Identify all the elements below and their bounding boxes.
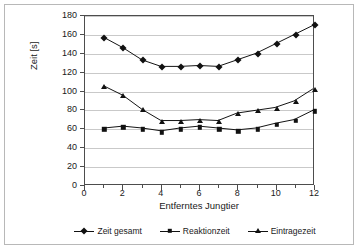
data-point-square: [121, 125, 125, 129]
legend-label: Reaktionzeit: [183, 226, 230, 236]
data-point-square: [102, 127, 106, 131]
data-point-triangle: [140, 107, 146, 112]
plot-area: [84, 15, 314, 185]
data-point-triangle: [197, 118, 203, 123]
data-point-triangle: [255, 108, 261, 113]
data-point-square: [179, 127, 183, 131]
y-tick-label: 120: [33, 67, 77, 76]
y-tick-label: 140: [33, 48, 77, 57]
data-point-square: [140, 127, 144, 131]
legend-item-0[interactable]: Zeit gesamt: [74, 226, 141, 236]
x-tick-mark-minor: [142, 185, 143, 188]
data-point-triangle: [159, 119, 165, 124]
data-point-triangle: [312, 87, 318, 92]
x-tick-mark-minor: [103, 185, 104, 188]
data-point-square: [159, 130, 163, 134]
data-point-square: [294, 119, 298, 123]
x-tick-label: 6: [184, 188, 214, 198]
data-point-triangle: [178, 119, 184, 124]
x-tick-mark-minor: [218, 185, 219, 188]
y-tick-label: 160: [33, 29, 77, 38]
x-tick-label: 2: [107, 188, 137, 198]
series-lines: [85, 16, 313, 184]
series-line-2: [104, 86, 313, 121]
data-point-triangle: [101, 84, 107, 89]
legend-label: Zeit gesamt: [97, 226, 141, 236]
data-point-triangle: [235, 111, 241, 116]
x-tick-mark-minor: [180, 185, 181, 188]
data-point-square: [236, 129, 240, 133]
data-point-square: [313, 109, 317, 113]
data-point-triangle: [120, 93, 126, 98]
legend-marker-triangle-icon: [248, 227, 268, 236]
y-tick-label: 60: [33, 124, 77, 133]
legend-item-2[interactable]: Eintragezeit: [248, 226, 316, 236]
legend-marker-square-icon: [160, 227, 180, 236]
data-point-square: [217, 127, 221, 131]
x-tick-label: 8: [222, 188, 252, 198]
y-tick-label: 100: [33, 86, 77, 95]
x-tick-label: 10: [261, 188, 291, 198]
x-axis-title: Entferntes Jungtier: [84, 200, 314, 211]
y-tick-label: 180: [33, 11, 77, 20]
data-point-square: [274, 122, 278, 126]
data-point-square: [255, 127, 259, 131]
chart-legend: Zeit gesamtReaktionzeitEintragezeit: [70, 226, 320, 236]
data-point-triangle: [274, 105, 280, 110]
legend-label: Eintragezeit: [271, 226, 316, 236]
x-tick-label: 12: [299, 188, 329, 198]
data-point-triangle: [293, 99, 299, 104]
line-chart-figure: Zeit [s] 020406080100120140160180 024681…: [0, 0, 359, 250]
x-tick-mark-minor: [295, 185, 296, 188]
series-line-0: [104, 25, 313, 66]
x-tick-mark-minor: [257, 185, 258, 188]
y-tick-label: 40: [33, 143, 77, 152]
y-tick-label: 20: [33, 162, 77, 171]
data-point-square: [198, 125, 202, 129]
chart-page: Zeit [s] 020406080100120140160180 024681…: [0, 0, 359, 250]
x-tick-label: 0: [69, 188, 99, 198]
data-point-triangle: [216, 119, 222, 124]
legend-item-1[interactable]: Reaktionzeit: [160, 226, 230, 236]
x-tick-label: 4: [146, 188, 176, 198]
y-tick-label: 80: [33, 105, 77, 114]
legend-marker-diamond-icon: [74, 227, 94, 236]
